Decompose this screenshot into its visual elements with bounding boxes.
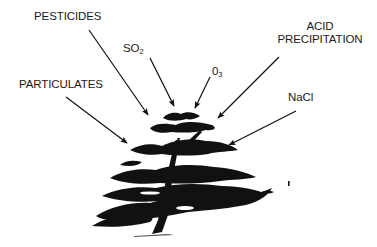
- arrow-nacl-icon: [229, 111, 296, 145]
- arrow-acid-precipitation-icon: [218, 57, 279, 118]
- tree-silhouette-icon: [92, 112, 290, 237]
- diagram-artwork: [0, 0, 377, 247]
- arrow-particulates-icon: [66, 97, 127, 143]
- arrow-pesticides-icon: [89, 30, 148, 115]
- arrow-o3-icon: [195, 77, 210, 108]
- arrow-so2-icon: [150, 58, 174, 106]
